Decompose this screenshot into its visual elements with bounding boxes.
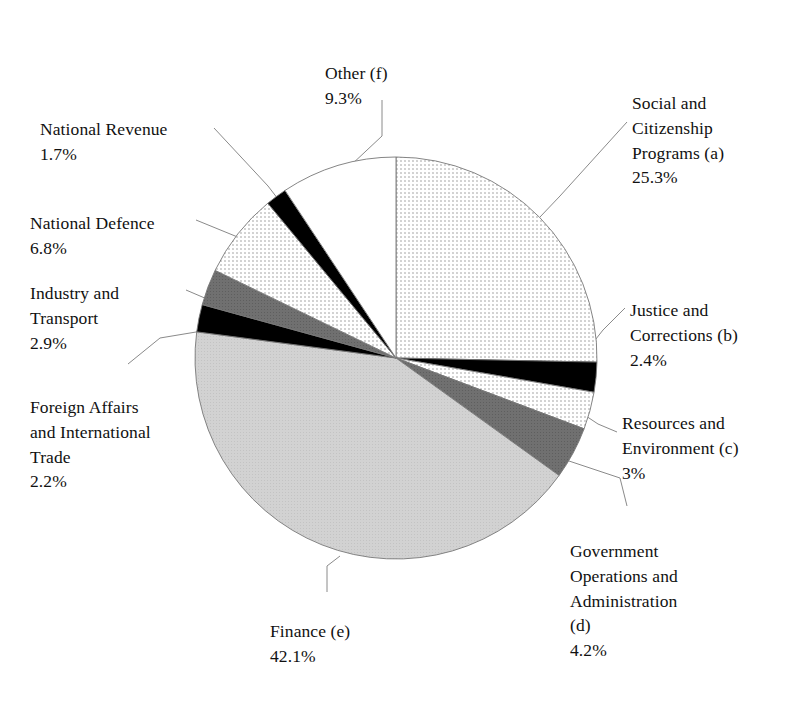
slice-label-defence-percent: 6.8% <box>30 236 230 261</box>
slice-label-social-percent: 25.3% <box>632 165 804 190</box>
leader-line-justice <box>592 308 625 344</box>
slice-label-justice: Justice and Corrections (b) 2.4% <box>630 273 806 397</box>
slice-label-other-text: Other (f) <box>325 63 388 83</box>
slice-label-finance-percent: 42.1% <box>270 644 460 669</box>
slice-label-social-text: Social and Citizenship Programs (a) <box>632 93 724 163</box>
leader-line-govops <box>566 460 627 506</box>
slice-label-revenue: National Revenue 1.7% <box>40 92 240 191</box>
slice-label-other: Other (f) 9.3% <box>325 36 495 135</box>
slice-label-govops-percent: 4.2% <box>570 638 770 663</box>
slice-label-foreign-affairs: Foreign Affairs and International Trade … <box>30 370 215 519</box>
slice-label-foreign-affairs-text: Foreign Affairs and International Trade <box>30 397 151 467</box>
slice-label-defence-text: National Defence <box>30 213 155 233</box>
slice-label-other-percent: 9.3% <box>325 86 495 111</box>
slice-label-resources-percent: 3% <box>622 461 808 486</box>
slice-label-social: Social and Citizenship Programs (a) 25.3… <box>632 66 804 215</box>
slice-label-revenue-percent: 1.7% <box>40 142 240 167</box>
leader-line-finance <box>327 556 340 592</box>
slice-label-revenue-text: National Revenue <box>40 119 167 139</box>
pie-chart-figure: Social and Citizenship Programs (a) 25.3… <box>0 0 810 702</box>
slice-label-finance-text: Finance (e) <box>270 621 350 641</box>
slice-label-industry-text: Industry and Transport <box>30 283 119 328</box>
slice-label-govops-text: Government Operations and Administration… <box>570 541 678 636</box>
slice-label-resources: Resources and Environment (c) 3% <box>622 386 808 510</box>
slice-label-govops: Government Operations and Administration… <box>570 514 770 688</box>
slice-label-foreign-affairs-percent: 2.2% <box>30 469 215 494</box>
slice-label-finance: Finance (e) 42.1% <box>270 594 460 693</box>
slice-label-industry-percent: 2.9% <box>30 331 202 356</box>
slice-label-defence: National Defence 6.8% <box>30 186 230 285</box>
slice-label-resources-text: Resources and Environment (c) <box>622 413 739 458</box>
slice-label-justice-text: Justice and Corrections (b) <box>630 300 738 345</box>
pie-slices-group <box>195 157 597 559</box>
slice-label-justice-percent: 2.4% <box>630 348 806 373</box>
